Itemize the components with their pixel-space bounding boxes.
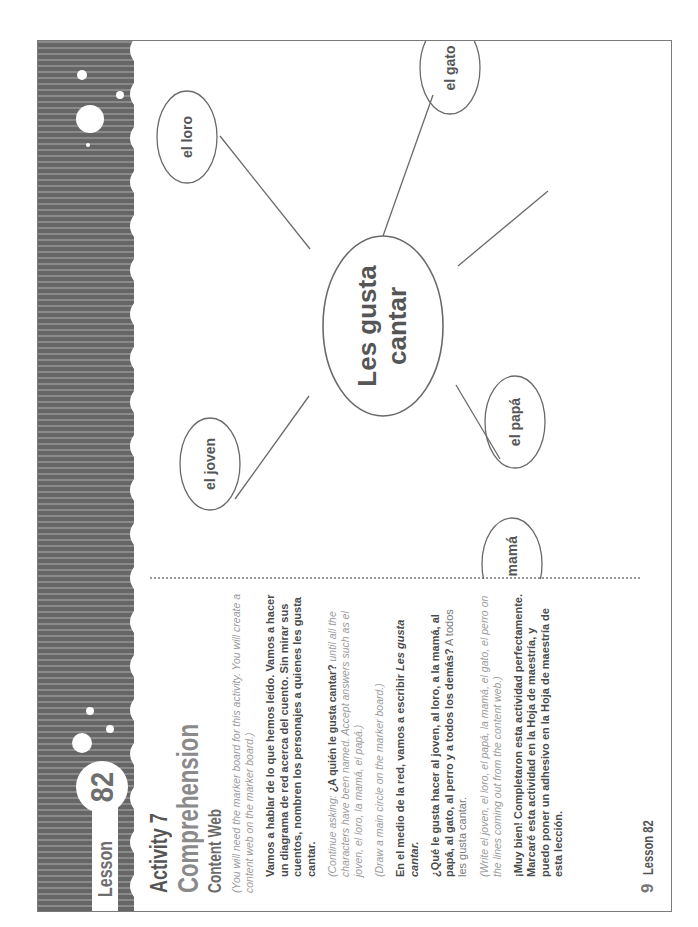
page-number: 9 — [638, 884, 657, 893]
script-paragraph: ¿Qué le gusta hacer al joven, al loro, a… — [429, 593, 470, 877]
center-node-line2: cantar — [382, 287, 412, 365]
script-paragraph: Vamos a hablar de lo que hemos leído. Va… — [264, 593, 318, 877]
bubble-icon — [72, 733, 92, 753]
content-web-diagram: Les gusta cantar el joven el loro el gat… — [134, 40, 671, 579]
teacher-note: (You will need the marker board for this… — [230, 593, 256, 893]
script-paragraph: En el medio de la red, vamos a escribir … — [394, 593, 421, 877]
node-label: el papá — [507, 398, 523, 446]
page-frame: Lesson 82 Activity 7 Comprehension Conte… — [37, 40, 672, 912]
node-label: la mamá — [504, 536, 520, 579]
footer-lesson-label: Lesson 82 — [640, 820, 656, 875]
node-label: el loro — [179, 116, 195, 158]
teacher-note: (Draw a main circle on the marker board.… — [373, 593, 386, 877]
teacher-note: (Write el joven, el loro, el papá, la ma… — [478, 593, 504, 877]
node-label: el gato — [442, 45, 458, 90]
script-text: En el medio de la red, vamos a escribir — [394, 671, 406, 877]
activity-label: Activity 7 — [146, 659, 172, 893]
instruction-column: Activity 7 Comprehension Content Web (Yo… — [146, 593, 574, 893]
script-paragraph: ¡Muy bien! Completaron esta actividad pe… — [512, 593, 566, 877]
section-title: Comprehension — [172, 671, 204, 893]
node-label: el joven — [202, 438, 218, 490]
question-text: ¿Qué le gusta hacer al joven, al loro, a… — [429, 614, 455, 877]
section-subtitle: Content Web — [204, 677, 226, 893]
note-text: (Continue asking: — [326, 792, 338, 877]
page-footer: 9 Lesson 82 — [638, 807, 658, 893]
lesson-number: 82 — [71, 761, 133, 814]
lesson-label: Lesson — [93, 841, 117, 897]
teacher-note: (Continue asking: ¿A quién le gusta cant… — [326, 593, 365, 877]
center-node-line1: Les gusta — [352, 265, 382, 387]
question-text: ¿A quién le gusta cantar? — [326, 664, 338, 792]
textbook-page: Lesson 82 Activity 7 Comprehension Conte… — [37, 40, 672, 912]
